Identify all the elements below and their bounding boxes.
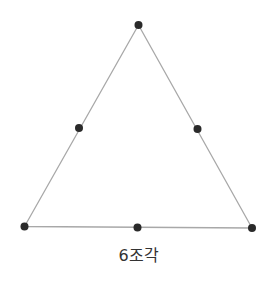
diagram-caption: 6조각 <box>0 245 277 267</box>
right-midpoint-point <box>194 125 202 133</box>
bottom-right-vertex-point <box>248 224 256 232</box>
triangle-diagram <box>0 0 277 287</box>
bottom-left-vertex-point <box>21 223 29 231</box>
triangle-points <box>21 21 257 232</box>
triangle-outline <box>25 25 253 228</box>
top-vertex-point <box>135 21 143 29</box>
bottom-midpoint-point <box>134 224 142 232</box>
left-midpoint-point <box>75 124 83 132</box>
